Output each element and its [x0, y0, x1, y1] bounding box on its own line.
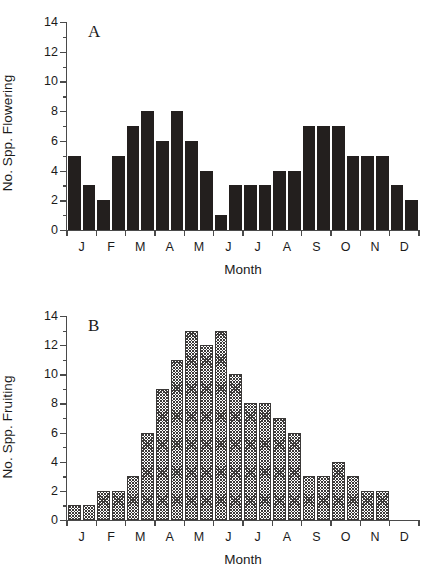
panel-a-x-tick: [184, 230, 185, 236]
panel-b-bar: [376, 491, 389, 520]
panel-a-y-minor-tick: [63, 215, 67, 216]
panel-b-bar: [141, 433, 154, 520]
panel-a-bar: [288, 171, 301, 230]
panel-a-y-tick: [60, 230, 66, 231]
panel-b-y-minor-tick: [63, 331, 67, 332]
panel-a-bar: [317, 126, 330, 230]
panel-a-y-minor-tick: [63, 96, 67, 97]
panel-b-x-axis-title: Month: [67, 552, 419, 567]
panel-a-y-tick: [60, 81, 66, 82]
panel-a-y-tick: [60, 52, 66, 53]
panel-b-bar: [273, 418, 286, 520]
panel-b-y-minor-tick: [63, 505, 67, 506]
panel-b-plot-area: 02468101214JFMAMJJASOND: [67, 316, 419, 520]
panel-a-y-tick-label: 6: [51, 134, 58, 148]
panel-b-x-tick: [272, 520, 273, 526]
panel-b-bar: [127, 476, 140, 520]
panel-a-y-tick-label: 2: [51, 193, 58, 207]
panel-a-bar: [273, 171, 286, 230]
panel-a-bar: [347, 156, 360, 230]
panel-a-x-tick-label: J: [255, 240, 261, 254]
panel-a-bar: [259, 185, 272, 230]
panel-b-bar: [347, 476, 360, 520]
panel-b-x-tick-label: O: [341, 530, 351, 544]
panel-a-y-axis-title: No. Spp. Flowering: [0, 18, 22, 248]
panel-a-bar: [215, 215, 228, 230]
panel-a-y-tick: [60, 111, 66, 112]
panel-a-bar: [405, 200, 418, 230]
panel-b-x-tick: [301, 520, 302, 526]
panel-b-y-tick-label: 8: [51, 396, 58, 410]
panel-b-y-tick: [60, 374, 66, 375]
panel-b-y-tick: [60, 433, 66, 434]
panel-a-x-tick: [389, 230, 390, 236]
panel-b-y-minor-tick: [63, 360, 67, 361]
panel-a-x-tick-label: O: [341, 240, 351, 254]
panel-b-x-tick-label: M: [194, 530, 204, 544]
panel-a-bar: [127, 126, 140, 230]
panel-a-x-tick: [418, 230, 419, 236]
panel-b-y-minor-tick: [63, 418, 67, 419]
panel-a-x-tick-label: M: [135, 240, 145, 254]
panel-b-x-tick: [213, 520, 214, 526]
panel-b-y-axis-title: No. Spp. Fruiting: [0, 312, 22, 542]
panel-a-x-tick: [66, 230, 67, 236]
panel-b-x-tick-label: S: [312, 530, 320, 544]
panel-a-y-tick: [60, 171, 66, 172]
panel-a-bar: [361, 156, 374, 230]
panel-b-bar: [156, 389, 169, 520]
panel-b-x-tick: [66, 520, 67, 526]
panel-a-bar: [171, 111, 184, 230]
panel-b-x-tick: [330, 520, 331, 526]
panel-a-x-tick: [242, 230, 243, 236]
panel-a-bar: [376, 156, 389, 230]
panel-a-y-minor-tick: [63, 126, 67, 127]
panel-b-y-tick-label: 14: [44, 309, 58, 323]
panel-b-y-tick-label: 4: [51, 455, 58, 469]
panel-b-bar: [332, 462, 345, 520]
panel-b-bar: [185, 331, 198, 520]
panel-a-x-tick-label: A: [283, 240, 291, 254]
panel-a-x-tick-label: N: [370, 240, 379, 254]
panel-b-x-tick-label: N: [370, 530, 379, 544]
panel-b-y-tick: [60, 462, 66, 463]
panel-b-x-tick: [154, 520, 155, 526]
panel-b-bar: [215, 331, 228, 520]
panel-a-bar: [141, 111, 154, 230]
panel-b-bar: [288, 433, 301, 520]
panel-a-y-minor-tick: [63, 37, 67, 38]
panel-a-y-tick: [60, 22, 66, 23]
panel-b-x-tick-label: A: [165, 530, 173, 544]
panel-b-y-tick-label: 0: [51, 513, 58, 527]
panel-b: No. Spp. Fruiting B 02468101214JFMAMJJAS…: [0, 290, 432, 578]
panel-a-x-axis-title: Month: [67, 262, 419, 277]
panel-a-y-tick: [60, 141, 66, 142]
panel-b-x-tick-label: F: [107, 530, 115, 544]
panel-b-x-tick-label: J: [79, 530, 85, 544]
panel-a-y-tick-label: 14: [44, 15, 58, 29]
panel-a-plot-area: 02468101214JFMAMJJASOND: [67, 22, 419, 230]
panel-a-y-tick-label: 0: [51, 223, 58, 237]
panel-a-x-tick: [272, 230, 273, 236]
panel-a-x-tick: [125, 230, 126, 236]
panel-a-x-tick-label: J: [225, 240, 231, 254]
panel-b-y-tick-label: 12: [44, 338, 58, 352]
panel-b-y-minor-tick: [63, 447, 67, 448]
panel-b-bar: [244, 403, 257, 520]
panel-a-x-tick-label: A: [165, 240, 173, 254]
panel-a-x-tick: [96, 230, 97, 236]
panel-b-x-tick: [184, 520, 185, 526]
panel-b-bar: [97, 491, 110, 520]
panel-a-bar: [303, 126, 316, 230]
panel-a-x-tick: [154, 230, 155, 236]
panel-a-bar: [391, 185, 404, 230]
panel-a-bar: [83, 185, 96, 230]
panel-a-y-minor-tick: [63, 185, 67, 186]
panel-a-y-tick-label: 10: [44, 74, 58, 88]
panel-b-x-tick: [125, 520, 126, 526]
panel-a-x-tick-label: D: [400, 240, 409, 254]
panel-a-bar: [229, 185, 242, 230]
panel-b-bar: [200, 345, 213, 520]
panel-b-bar: [171, 360, 184, 520]
panel-a-x-tick: [213, 230, 214, 236]
